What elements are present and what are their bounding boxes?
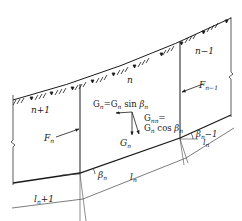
- label-Fn1: Fn−1: [198, 80, 218, 91]
- slice-label-n1: n+1: [31, 105, 50, 115]
- slice-label-n: n: [127, 75, 133, 85]
- label-Fn: Fn: [43, 133, 54, 144]
- slice-label-nm1: n−1: [195, 46, 214, 56]
- beta-nm1-arc: [191, 133, 193, 139]
- label-lnm1: ln: [203, 138, 210, 148]
- right-boundary: [229, 17, 233, 117]
- normal-equation-line2: Gn cos βn: [144, 123, 183, 134]
- left-boundary: [11, 95, 15, 185]
- tangential-equation: Gn=Gn sin βn: [93, 99, 148, 110]
- ground-hatching: [13, 20, 228, 105]
- normal-force-arrow: [132, 112, 139, 134]
- slip-surface: [13, 115, 231, 183]
- label-ln: ln: [130, 172, 137, 183]
- slice-method-diagram: n+1 n n−1 Fn Fn−1 Gn Gn=Gn sin βn Gnn= G…: [0, 0, 242, 221]
- label-Gn: Gn: [120, 138, 131, 149]
- tangential-force-arrow: [116, 112, 132, 113]
- label-beta-nm1: βn−1: [195, 129, 217, 140]
- force-Fn-arrow: [56, 129, 79, 137]
- beta-n-arc: [93, 168, 95, 174]
- label-ln1: ln+1: [34, 194, 54, 205]
- label-beta-n: βn: [97, 170, 107, 181]
